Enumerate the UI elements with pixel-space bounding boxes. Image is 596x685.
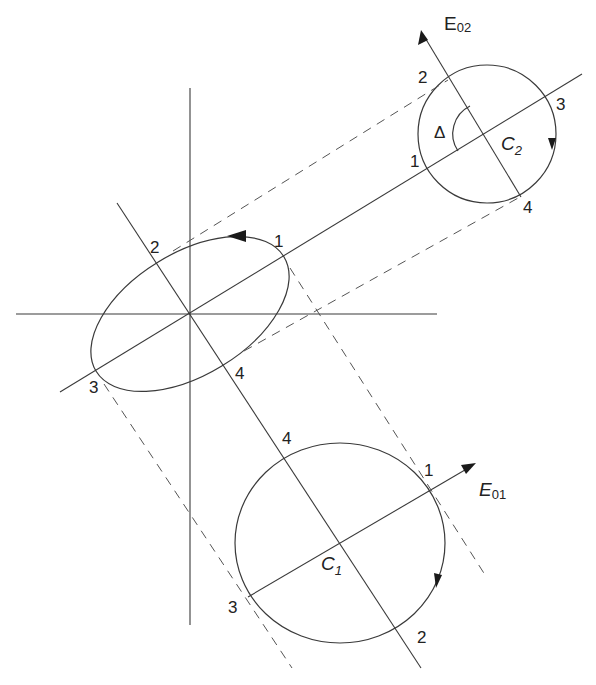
dashed-projection-upper	[173, 80, 448, 251]
c2-point-1-label: 1	[410, 152, 419, 171]
c2-point-3-label: 3	[556, 95, 565, 114]
c1-point-4-label: 4	[282, 429, 291, 448]
e02-letter: E	[444, 13, 457, 34]
dashed-projection-lower	[244, 197, 520, 351]
e01-arrowhead-icon	[461, 463, 476, 474]
c1-center-subscript: 1	[335, 563, 342, 578]
e01-axis-label: E01	[479, 479, 506, 502]
ellipse-point-1-label: 1	[274, 232, 283, 251]
polarization-diagram: 1 2 3 4 1 2 3 4 Δ C2 E02 1 2 3 4 C1 E01	[0, 0, 596, 685]
minor-axis-line	[117, 203, 421, 668]
ellipse-point-4-label: 4	[235, 364, 244, 383]
c1-center-letter: C	[321, 553, 335, 574]
c1-point-1-label: 1	[424, 461, 433, 480]
e02-arrowhead-icon	[418, 30, 428, 45]
delta-angle-label: Δ	[434, 123, 445, 142]
c2-center-label: C2	[501, 133, 523, 158]
c2-center-subscript: 2	[514, 143, 523, 158]
ellipse-direction-arrow-icon	[227, 230, 246, 242]
e02-axis	[424, 36, 521, 197]
c2-point-2-label: 2	[418, 68, 427, 87]
ellipse-point-3-label: 3	[89, 378, 98, 397]
c1-point-2-label: 2	[417, 628, 426, 647]
e02-axis-label: E02	[444, 13, 471, 35]
c2-point-4-label: 4	[523, 198, 532, 217]
ellipse-point-2-label: 2	[150, 238, 159, 257]
e01-subscript: 01	[492, 487, 506, 502]
e01-letter: E	[479, 479, 492, 500]
major-axis-line	[60, 74, 582, 392]
c1-point-3-label: 3	[228, 598, 237, 617]
c1-center-label: C1	[321, 553, 342, 578]
c2-center-letter: C	[501, 133, 515, 154]
e02-subscript: 02	[457, 20, 471, 35]
